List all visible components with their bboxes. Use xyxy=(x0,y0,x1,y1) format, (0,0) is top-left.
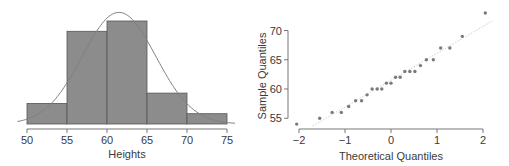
histogram-bar xyxy=(187,114,227,124)
qq-point xyxy=(425,58,428,61)
x-tick-label: 70 xyxy=(181,134,193,146)
qq-point xyxy=(354,99,357,102)
qq-point xyxy=(403,70,406,73)
qq-point xyxy=(295,122,298,125)
qq-point xyxy=(432,58,435,61)
x-tick-label: 50 xyxy=(21,134,33,146)
x-tick-label: −2 xyxy=(293,134,306,146)
histogram-bar xyxy=(107,21,147,124)
qq-point xyxy=(376,87,379,90)
x-tick-label: 0 xyxy=(388,134,394,146)
qq-point xyxy=(448,46,451,49)
qq-point xyxy=(389,81,392,84)
qq-point xyxy=(380,87,383,90)
qq-plot-chart: 55606570−2−1012 xyxy=(270,11,492,146)
x-tick-label: 55 xyxy=(61,134,73,146)
x-tick-label: 2 xyxy=(480,134,486,146)
qq-point xyxy=(318,117,321,120)
qq-point xyxy=(484,11,487,14)
qq-x-axis-title: Theoretical Quantiles xyxy=(339,150,443,162)
histogram-bar xyxy=(67,31,107,124)
qq-point xyxy=(347,105,350,108)
y-tick-label: 55 xyxy=(270,112,282,124)
x-tick-label: −1 xyxy=(339,134,352,146)
histogram-chart: 505560657075 xyxy=(17,12,235,146)
x-tick-label: 75 xyxy=(221,134,233,146)
qq-point xyxy=(340,111,343,114)
qq-point xyxy=(399,76,402,79)
qq-point xyxy=(365,93,368,96)
qq-reference-line xyxy=(313,21,492,126)
y-tick-label: 60 xyxy=(270,83,282,95)
y-tick-label: 65 xyxy=(270,54,282,66)
qq-y-axis-title: Sample Quantiles xyxy=(256,32,268,119)
x-tick-label: 1 xyxy=(434,134,440,146)
qq-point xyxy=(461,35,464,38)
x-tick-label: 60 xyxy=(101,134,113,146)
qq-point xyxy=(394,76,397,79)
qq-point xyxy=(408,70,411,73)
y-tick-label: 70 xyxy=(270,25,282,37)
qq-point xyxy=(370,87,373,90)
x-tick-label: 65 xyxy=(141,134,153,146)
qq-point xyxy=(360,99,363,102)
histogram-x-axis-title: Heights xyxy=(108,148,146,160)
histogram-bar xyxy=(27,103,67,124)
qq-point xyxy=(419,64,422,67)
qq-point xyxy=(439,46,442,49)
qq-point xyxy=(330,111,333,114)
figure: 505560657075 55606570−2−1012 Heights The… xyxy=(0,0,509,166)
qq-point xyxy=(385,81,388,84)
qq-point xyxy=(413,70,416,73)
